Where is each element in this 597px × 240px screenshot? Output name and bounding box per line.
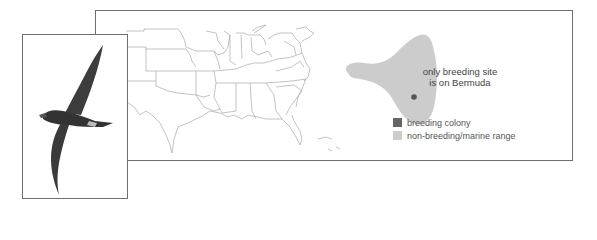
bermuda-annotation: only breeding site is on Bermuda [420, 66, 500, 88]
map-legend: breeding colony non-breeding/marine rang… [393, 116, 516, 142]
legend-item-marine-range: non-breeding/marine range [393, 129, 516, 142]
annotation-line-2: is on Bermuda [420, 77, 500, 88]
legend-label: breeding colony [407, 118, 471, 128]
bird-illustration [23, 35, 127, 198]
marine-range-swatch [393, 131, 402, 140]
legend-label: non-breeding/marine range [407, 131, 516, 141]
legend-item-breeding-colony: breeding colony [393, 116, 516, 129]
breeding-colony-marker [411, 94, 417, 100]
annotation-line-1: only breeding site [420, 66, 500, 77]
us-state-outlines [126, 25, 340, 153]
bird-illustration-panel [22, 34, 128, 199]
breeding-colony-swatch [393, 118, 402, 127]
